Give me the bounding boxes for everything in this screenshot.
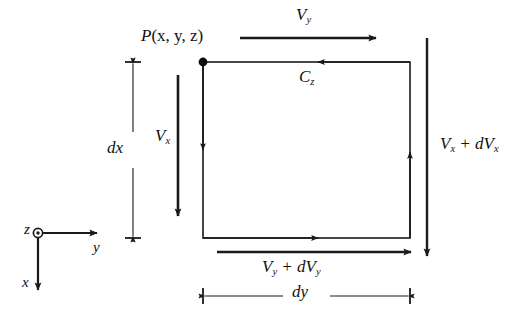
vector-vy-plus-dvy-label: Vy + dVy [262, 258, 321, 275]
axis-z-center-dot-icon [36, 231, 39, 234]
dimension-dx-label: dx [107, 139, 123, 156]
vector-vx-label: Vx [155, 127, 170, 144]
axis-label-z: z [24, 222, 30, 237]
vector-vx-plus-dvx-label: Vx + dVx [440, 135, 499, 152]
axis-label-y: y [93, 240, 100, 255]
coordinate-axes [33, 228, 97, 290]
fluid-element-diagram [0, 0, 512, 328]
control-volume-rectangle [203, 62, 410, 238]
point-p-label: P(x, y, z) [141, 27, 203, 44]
point-p-marker [199, 58, 208, 67]
axis-label-x: x [22, 275, 29, 290]
vector-vy-label: Vy [296, 6, 311, 23]
dimension-line-dx [125, 62, 141, 238]
dimension-dy-label: dy [292, 283, 308, 300]
circulation-cz-label: Cz [299, 68, 314, 85]
